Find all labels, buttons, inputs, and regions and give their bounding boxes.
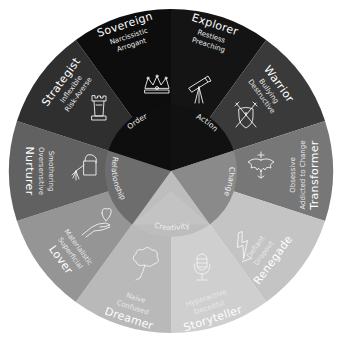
segment-title: Nurturer — [23, 147, 36, 196]
segment-trait: Oversensitive — [37, 147, 45, 195]
segment-trait: Obsessive — [289, 157, 297, 193]
segment-title: Transformer — [308, 140, 321, 210]
segment-trait: Addicted to Change — [299, 140, 307, 209]
segment-nurturer-labels: Nurturer Smothering Oversensitive — [23, 147, 55, 196]
archetype-wheel: Order Action Change Creativity Relations… — [0, 0, 342, 347]
segment-trait: Smothering — [47, 151, 55, 192]
